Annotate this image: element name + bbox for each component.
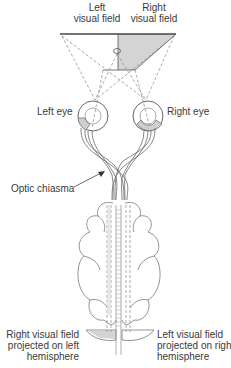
left-eye-label: Left eye (37, 106, 73, 117)
optic-chiasma-label: Optic chiasma (11, 183, 74, 194)
midline-rungs (116, 210, 121, 326)
right-field-projection-label: Right visual field projected on left hem… (5, 329, 79, 362)
left-visual-field-label: Left visual field (72, 2, 122, 24)
label-line: Left visual field (157, 329, 231, 340)
optic-chiasma-arrow (74, 171, 105, 187)
label-line: Left (72, 2, 122, 13)
midline (116, 205, 121, 355)
label-line: projected on left (5, 340, 79, 351)
left-eye (78, 101, 108, 131)
right-eye (133, 101, 163, 131)
label-line: Right (122, 2, 186, 13)
label-line: visual field (72, 13, 122, 24)
left-field-projection-label: Left visual field projected on right hem… (157, 329, 231, 362)
brain (78, 202, 160, 340)
label-line: visual field (122, 13, 186, 24)
right-visual-field-label: Right visual field (122, 2, 186, 24)
label-line: Right visual field (5, 329, 79, 340)
optic-nerves (81, 128, 155, 200)
left-tract-shaded (107, 205, 111, 315)
visual-field (60, 34, 176, 70)
label-line: hemisphere (157, 351, 231, 362)
label-line: projected on right (157, 340, 231, 351)
right-eye-label: Right eye (167, 106, 209, 117)
label-line: hemisphere (5, 351, 79, 362)
left-visual-cortex-shaded (88, 331, 115, 339)
